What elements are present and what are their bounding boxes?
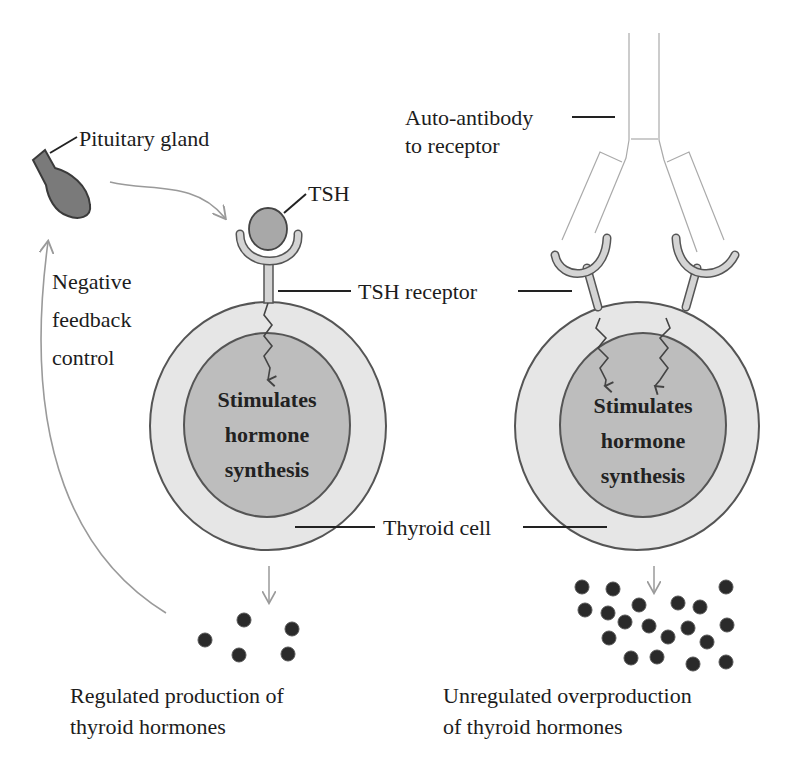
negative-feedback-label-line1: Negative	[52, 268, 131, 295]
left-nucleus-text-line2: hormone	[197, 420, 337, 450]
left-nucleus-text-line1: Stimulates	[197, 385, 337, 415]
left-caption-line1: Regulated production of	[70, 682, 284, 709]
diagram-canvas	[0, 0, 795, 766]
tsh-leader-line	[284, 194, 306, 213]
left-caption-line2: thyroid hormones	[70, 713, 226, 740]
right-hormone-dots	[575, 580, 734, 671]
left-nucleus-text-line3: synthesis	[197, 455, 337, 485]
tsh-molecule-icon	[249, 208, 287, 250]
right-nucleus-text-line2: hormone	[573, 426, 713, 456]
negative-feedback-label-line2: feedback	[52, 306, 131, 333]
tsh-receptor-label: TSH receptor	[358, 278, 477, 305]
left-thyroid-cell	[150, 194, 386, 550]
pituitary-leader-line	[50, 137, 77, 153]
left-hormone-dots	[198, 613, 299, 662]
auto-antibody-label-line2: to receptor	[405, 132, 500, 159]
pituitary-to-tsh-arrow	[110, 182, 225, 218]
pituitary-gland-label: Pituitary gland	[79, 125, 209, 152]
left-receptor-stalk	[264, 262, 273, 303]
pituitary-gland-icon	[33, 150, 90, 218]
right-caption-line1: Unregulated overproduction	[443, 682, 692, 709]
right-caption-line2: of thyroid hormones	[443, 713, 623, 740]
right-nucleus-text-line1: Stimulates	[573, 391, 713, 421]
negative-feedback-label-line3: control	[52, 344, 114, 371]
thyroid-cell-label: Thyroid cell	[383, 514, 491, 541]
negative-feedback-arrow	[41, 242, 166, 613]
tsh-label: TSH	[308, 180, 350, 207]
auto-antibody-label-line1: Auto-antibody	[405, 104, 533, 131]
auto-antibody-icon	[562, 33, 724, 252]
right-nucleus-text-line3: synthesis	[573, 461, 713, 491]
